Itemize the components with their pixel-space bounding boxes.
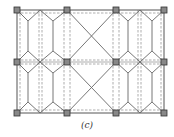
- middle-bay-bracing: [67, 10, 116, 113]
- column-node: [161, 59, 167, 65]
- column-node: [113, 7, 119, 13]
- column-node: [14, 7, 20, 13]
- column-node: [64, 110, 70, 116]
- column-node: [113, 59, 119, 65]
- structural-grid-diagram: [0, 0, 174, 137]
- column-node: [14, 59, 20, 65]
- left-bay-bracing: [17, 10, 67, 113]
- column-node: [161, 7, 167, 13]
- column-nodes: [14, 7, 167, 116]
- column-node: [64, 59, 70, 65]
- right-bay-bracing: [116, 10, 164, 113]
- column-node: [113, 110, 119, 116]
- column-node: [161, 110, 167, 116]
- figure-caption: (c): [0, 120, 174, 130]
- column-node: [64, 7, 70, 13]
- column-node: [14, 110, 20, 116]
